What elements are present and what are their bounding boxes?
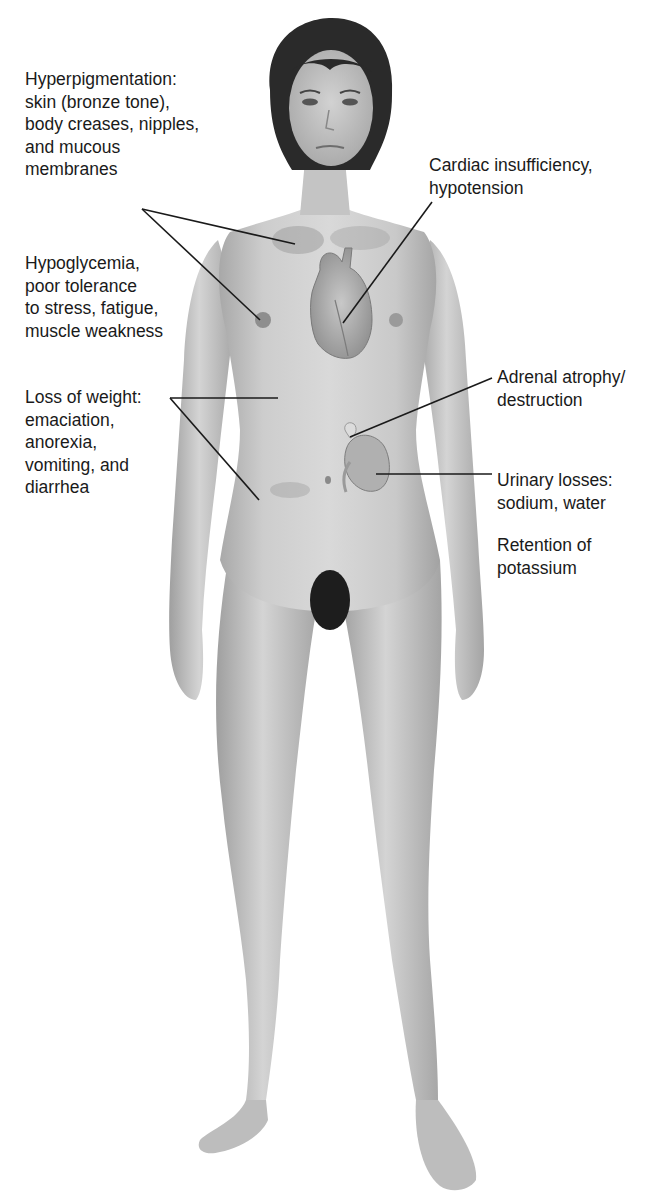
label-hyperpigmentation: Hyperpigmentation: skin (bronze tone), b…: [25, 68, 199, 181]
label-line: membranes: [25, 158, 199, 181]
label-hypoglycemia: Hypoglycemia, poor tolerance to stress, …: [25, 252, 163, 342]
label-line: Urinary losses:: [497, 469, 613, 492]
label-line: diarrhea: [25, 476, 142, 499]
pigment-patch: [270, 482, 310, 498]
label-line: Retention of: [497, 534, 591, 557]
nipple-left: [255, 312, 271, 328]
label-line: Loss of weight:: [25, 386, 142, 409]
label-line: and mucous: [25, 136, 199, 159]
label-line: to stress, fatigue,: [25, 297, 163, 320]
nipple-right: [389, 313, 403, 327]
head: [270, 18, 393, 170]
label-adrenal: Adrenal atrophy/ destruction: [497, 366, 625, 411]
label-line: potassium: [497, 557, 591, 580]
label-potassium: Retention of potassium: [497, 534, 591, 579]
label-line: poor tolerance: [25, 275, 163, 298]
diagram-canvas: Hyperpigmentation: skin (bronze tone), b…: [0, 0, 662, 1204]
left-leg: [199, 560, 320, 1153]
label-urinary: Urinary losses: sodium, water: [497, 469, 613, 514]
label-line: body creases, nipples,: [25, 113, 199, 136]
label-line: sodium, water: [497, 492, 613, 515]
label-line: emaciation,: [25, 409, 142, 432]
label-line: Hyperpigmentation:: [25, 68, 199, 91]
label-line: destruction: [497, 389, 625, 412]
label-line: anorexia,: [25, 431, 142, 454]
label-weight-loss: Loss of weight: emaciation, anorexia, vo…: [25, 386, 142, 499]
label-line: muscle weakness: [25, 320, 163, 343]
label-line: Cardiac insufficiency,: [429, 154, 593, 177]
pubic-area: [310, 570, 350, 630]
label-line: vomiting, and: [25, 454, 142, 477]
label-line: hypotension: [429, 177, 593, 200]
label-line: Hypoglycemia,: [25, 252, 163, 275]
label-cardiac: Cardiac insufficiency, hypotension: [429, 154, 593, 199]
label-line: Adrenal atrophy/: [497, 366, 625, 389]
label-line: skin (bronze tone),: [25, 91, 199, 114]
pigment-patch: [330, 226, 390, 250]
navel: [325, 476, 331, 484]
